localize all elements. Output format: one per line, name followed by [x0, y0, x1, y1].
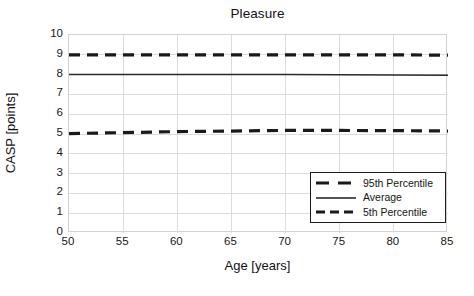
x-axis-tick-label: 75: [332, 236, 345, 248]
y-axis-tick-label: 3: [42, 167, 63, 179]
legend-item[interactable]: 5th Percentile: [316, 205, 441, 219]
y-axis-tick-label: 5: [42, 127, 63, 139]
legend-item[interactable]: Average: [316, 191, 441, 205]
y-axis-title: CASP [points]: [0, 34, 22, 232]
x-axis-tick-label: 50: [62, 236, 75, 248]
x-axis-tick-labels: 5055606570758085: [68, 236, 447, 252]
legend-item-label: Average: [363, 192, 402, 203]
dashed-thick-line-icon: [316, 207, 356, 217]
solid-thin-line-icon: [316, 193, 356, 203]
y-axis-tick-label: 0: [42, 226, 63, 238]
y-axis-tick-labels: 109876543210: [42, 34, 63, 232]
y-axis-tick-label: 1: [42, 206, 63, 218]
y-axis-tick-label: 8: [42, 68, 63, 80]
legend-item-label: 95th Percentile: [363, 178, 433, 189]
chart-figure: Pleasure CASP [points] 109876543210 5055…: [0, 0, 474, 296]
x-axis-tick-label: 65: [224, 236, 237, 248]
y-axis-tick-label: 10: [42, 28, 63, 40]
x-axis-title: Age [years]: [68, 258, 447, 273]
y-axis-tick-label: 7: [42, 87, 63, 99]
x-axis-tick-label: 85: [441, 236, 454, 248]
data-series-line: [69, 130, 448, 133]
legend-item[interactable]: 95th Percentile: [316, 176, 441, 190]
x-axis-tick-label: 55: [116, 236, 129, 248]
y-axis-tick-label: 4: [42, 147, 63, 159]
x-axis-tick-label: 80: [386, 236, 399, 248]
legend-item-label: 5th Percentile: [363, 207, 427, 218]
chart-legend: 95th PercentileAverage5th Percentile: [310, 172, 446, 223]
y-axis-tick-label: 9: [42, 48, 63, 60]
y-axis-tick-label: 6: [42, 107, 63, 119]
x-axis-tick-label: 60: [170, 236, 183, 248]
chart-title: Pleasure: [68, 6, 447, 21]
x-axis-tick-label: 70: [278, 236, 291, 248]
data-series-line: [69, 75, 448, 76]
dashed-thick-line-icon: [316, 178, 356, 188]
y-axis-tick-label: 2: [42, 186, 63, 198]
